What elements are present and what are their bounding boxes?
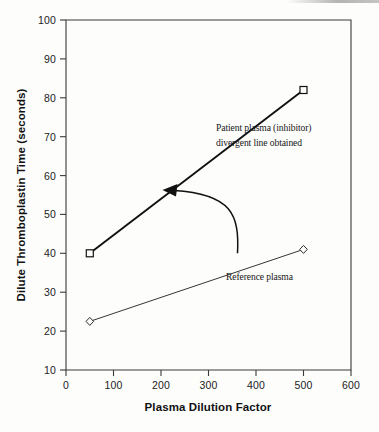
y-tick-label: 40 xyxy=(44,247,56,259)
series-line-reference-plasma xyxy=(90,249,304,321)
series-line-patient-plasma xyxy=(90,90,304,253)
y-tick-label: 70 xyxy=(44,131,56,143)
patient-annotation: Patient plasma (inhibitor) divergent lin… xyxy=(216,122,311,148)
plot-frame xyxy=(66,20,351,370)
data-point-marker-square xyxy=(86,250,93,257)
x-tick-label: 300 xyxy=(199,379,217,391)
divergence-arrow-curve xyxy=(174,191,238,254)
arrow-head-icon xyxy=(163,184,178,197)
y-tick-label: 20 xyxy=(44,325,56,337)
figure-container: 100 90 80 70 60 50 40 30 20 10 0 100 200 xyxy=(0,0,379,432)
y-axis-ticks xyxy=(60,20,66,370)
x-tick-label: 400 xyxy=(247,379,265,391)
x-axis-tick-labels: 0 100 200 300 400 500 600 xyxy=(63,379,360,391)
y-tick-label: 80 xyxy=(44,92,56,104)
y-tick-label: 100 xyxy=(38,14,56,26)
y-tick-label: 50 xyxy=(44,208,56,220)
patient-annotation-line-1: Patient plasma (inhibitor) xyxy=(216,122,311,134)
series-reference-plasma xyxy=(86,245,307,325)
y-tick-label: 60 xyxy=(44,170,56,182)
x-tick-label: 600 xyxy=(342,379,360,391)
line-chart: 100 90 80 70 60 50 40 30 20 10 0 100 200 xyxy=(0,0,379,432)
series-patient-plasma xyxy=(86,87,307,257)
reference-annotation-line-1: Reference plasma xyxy=(226,271,294,282)
x-axis-ticks xyxy=(66,370,351,376)
divergence-arrow xyxy=(163,184,238,253)
y-tick-label: 30 xyxy=(44,286,56,298)
patient-annotation-line-2: divergent line obtained xyxy=(216,137,302,148)
y-axis-title: Dilute Thromboplastin Time (seconds) xyxy=(15,88,27,301)
x-tick-label: 200 xyxy=(152,379,170,391)
x-axis-title: Plasma Dilution Factor xyxy=(145,401,272,413)
y-axis-tick-labels: 100 90 80 70 60 50 40 30 20 10 xyxy=(38,14,56,376)
reference-annotation: Reference plasma xyxy=(226,271,294,282)
y-tick-label: 10 xyxy=(44,364,56,376)
x-tick-label: 100 xyxy=(104,379,122,391)
data-point-marker-square xyxy=(300,87,307,94)
data-point-marker-diamond xyxy=(300,245,308,253)
x-tick-label: 0 xyxy=(63,379,69,391)
data-point-marker-diamond xyxy=(86,317,94,325)
y-tick-label: 90 xyxy=(44,53,56,65)
x-tick-label: 500 xyxy=(294,379,312,391)
